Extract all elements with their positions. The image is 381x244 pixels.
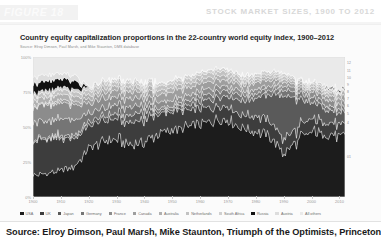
right-label-8: 8 xyxy=(347,90,349,94)
legend-item-austria[interactable]: Austria xyxy=(275,212,292,216)
running-head-title: STOCK MARKET SIZES, 1900 TO 2012 xyxy=(206,7,375,16)
right-label-11: 11 xyxy=(347,69,351,73)
y-axis-tick-75pct: 75% xyxy=(23,90,31,95)
legend-item-all-others[interactable]: All others xyxy=(300,212,321,216)
legend-item-germany[interactable]: Germany xyxy=(81,212,102,216)
y-axis-tick-50pct: 50% xyxy=(23,125,31,130)
legend-swatch-icon xyxy=(186,212,190,216)
stacked-area-chart xyxy=(33,57,345,197)
figure-number-tag: FIGURE 18 xyxy=(0,5,78,20)
plot-area xyxy=(33,57,345,197)
x-axis-labels: 1900191019201930194019501960197019801990… xyxy=(33,199,345,209)
legend-swatch-icon xyxy=(275,212,279,216)
x-axis-tick-1960: 1960 xyxy=(196,199,205,204)
legend-swatch-icon xyxy=(251,212,255,216)
legend-swatch-icon xyxy=(40,212,44,216)
legend-item-uk[interactable]: UK xyxy=(40,212,51,216)
legend-label: Netherlands xyxy=(191,212,211,216)
legend-swatch-icon xyxy=(81,212,85,216)
right-label-7: 7 xyxy=(347,97,349,101)
legend-item-japan[interactable]: Japan xyxy=(58,212,74,216)
x-axis-tick-1930: 1930 xyxy=(112,199,121,204)
legend-label: USA xyxy=(25,212,33,216)
right-label-12: 12 xyxy=(347,61,351,65)
x-axis-tick-1900: 1900 xyxy=(29,199,38,204)
legend-label: Austria xyxy=(281,212,293,216)
legend-item-south-africa[interactable]: South Africa xyxy=(219,212,245,216)
y-axis-tick-25pct: 25% xyxy=(23,160,31,165)
x-axis-tick-1920: 1920 xyxy=(84,199,93,204)
legend-swatch-icon xyxy=(20,212,24,216)
legend-label: Russia xyxy=(257,212,269,216)
page-header: FIGURE 18 STOCK MARKET SIZES, 1900 TO 20… xyxy=(0,0,381,24)
legend-swatch-icon xyxy=(219,212,223,216)
x-axis-tick-1950: 1950 xyxy=(168,199,177,204)
legend-swatch-icon xyxy=(133,212,137,216)
right-label-5: 5 xyxy=(347,112,349,116)
legend-label: Germany xyxy=(86,212,102,216)
right-label-9: 9 xyxy=(347,83,349,87)
figure-panel: Country equity capitalization proportion… xyxy=(0,24,381,221)
chart-source-note: Source: Elroy Dimson, Paul Marsh, and Mi… xyxy=(20,45,139,49)
legend-label: France xyxy=(114,212,126,216)
legend-item-russia[interactable]: Russia xyxy=(251,212,268,216)
source-caption: Source: Elroy Dimson, Paul Marsh, Mike S… xyxy=(6,227,381,237)
x-axis-tick-1970: 1970 xyxy=(224,199,233,204)
chart-title: Country equity capitalization proportion… xyxy=(20,33,334,42)
x-axis-tick-2010: 2010 xyxy=(335,199,344,204)
y-axis-tick-100pct: 100% xyxy=(21,55,31,60)
x-axis-tick-1990: 1990 xyxy=(279,199,288,204)
right-side-country-labels: 12111098765401 xyxy=(347,57,379,197)
legend-swatch-icon xyxy=(300,212,304,216)
legend-swatch-icon xyxy=(159,212,163,216)
legend-label: South Africa xyxy=(224,212,244,216)
y-axis-labels: 100%75%50%25%0% xyxy=(13,54,33,200)
chart-legend: USAUKJapanGermanyFranceCanadaAustraliaNe… xyxy=(20,209,368,218)
legend-item-france[interactable]: France xyxy=(109,212,126,216)
legend-label: Japan xyxy=(63,212,73,216)
right-label-10: 10 xyxy=(347,76,351,80)
area-series-group xyxy=(33,57,345,197)
x-axis-tick-1940: 1940 xyxy=(140,199,149,204)
legend-item-netherlands[interactable]: Netherlands xyxy=(186,212,212,216)
legend-swatch-icon xyxy=(58,212,62,216)
legend-swatch-icon xyxy=(109,212,113,216)
legend-label: UK xyxy=(46,212,51,216)
legend-item-australia[interactable]: Australia xyxy=(159,212,179,216)
legend-label: All others xyxy=(305,212,321,216)
caption-band: Source: Elroy Dimson, Paul Marsh, Mike S… xyxy=(0,221,381,244)
x-axis-tick-1980: 1980 xyxy=(251,199,260,204)
right-label-01: 01 xyxy=(347,155,351,159)
x-axis-tick-1910: 1910 xyxy=(56,199,65,204)
legend-item-canada[interactable]: Canada xyxy=(133,212,152,216)
legend-label: Canada xyxy=(138,212,151,216)
right-label-4: 4 xyxy=(347,121,349,125)
legend-item-usa[interactable]: USA xyxy=(20,212,33,216)
right-label-6: 6 xyxy=(347,104,349,108)
x-axis-tick-2000: 2000 xyxy=(307,199,316,204)
legend-label: Australia xyxy=(164,212,179,216)
